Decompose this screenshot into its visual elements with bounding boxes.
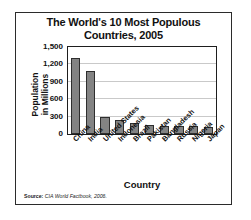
chart-title-line-1: The World's 10 Most Populous (47, 16, 201, 28)
source-label: Source: (24, 193, 43, 199)
y-axis-tick-label: 900 (50, 76, 63, 85)
y-axis-tick-label: 0 (59, 129, 63, 138)
chart-figure-frame: The World's 10 Most Populous Countries, … (15, 12, 232, 205)
y-axis-tick-label: 1,500 (43, 42, 63, 51)
y-axis-tick-label: 600 (50, 94, 63, 103)
x-axis-title: Country (67, 179, 217, 190)
y-axis-tick-labels: 03006009001,2001,500 (28, 46, 65, 135)
x-axis-tick-labels: ChinaIndiaUnited StatesIndonesiaBrazilPa… (67, 135, 217, 181)
source-note: Source: CIA World Factbook, 2006. (24, 193, 107, 199)
chart-title: The World's 10 Most Populous Countries, … (22, 16, 225, 41)
y-axis-tick-label: 1,200 (43, 59, 63, 68)
y-axis-tick-label: 300 (50, 111, 63, 120)
source-text: CIA World Factbook, 2006. (45, 193, 107, 199)
bar-china (71, 58, 80, 134)
chart-title-line-2: Countries, 2005 (22, 29, 225, 42)
